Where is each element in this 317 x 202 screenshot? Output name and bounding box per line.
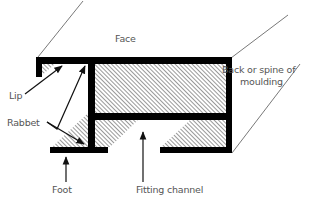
right-foot-hatch [161,120,226,147]
label-foot: Foot [52,184,72,195]
lip-wall [36,57,42,77]
label-back-line1: Back or spine of [222,64,296,75]
label-fitting-channel: Fitting channel [136,184,203,195]
label-rabbet: Rabbet [7,117,40,128]
perspective-line-top-right [231,15,288,58]
upper-hatch [95,64,226,113]
center-stem [88,64,95,153]
foot-hatch [95,120,138,147]
moulding-diagram: Face Back or spine of moulding Lip Rabbe… [0,0,317,202]
label-lip: Lip [9,90,23,101]
perspective-line-lip [38,1,83,57]
middle-bar [95,113,226,120]
right-foot-bar [160,147,232,153]
foot-bar [50,147,108,153]
label-face: Face [115,33,136,44]
rabbet-hatch [52,113,88,147]
label-back-line2: moulding [240,76,283,87]
face-bar [36,57,232,64]
rabbet-arrow-upper [47,66,85,129]
lip-hatch [41,64,55,76]
